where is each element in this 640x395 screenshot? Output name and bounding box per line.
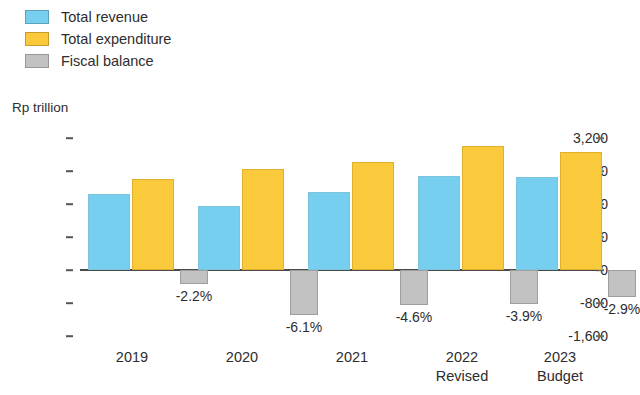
- y-axis-tick-mark: [66, 236, 73, 238]
- x-axis-category-year: 2023: [544, 349, 576, 365]
- y-axis-tick-mark: [66, 137, 73, 139]
- fiscal-balance-percent-label: -2.9%: [604, 301, 640, 317]
- x-axis-category-qualifier: Budget: [537, 367, 583, 386]
- y-axis-tick-mark: [66, 170, 73, 172]
- x-axis-category-year: 2019: [116, 349, 148, 365]
- bar-total-expenditure: [352, 162, 394, 270]
- x-axis-category-year: 2021: [336, 349, 368, 365]
- x-axis-category-label: 2020: [226, 348, 258, 367]
- x-axis-category-label: 2021: [336, 348, 368, 367]
- bar-total-revenue: [198, 206, 240, 270]
- bar-total-revenue: [516, 177, 558, 270]
- y-axis-tick-mark: [66, 269, 73, 271]
- x-axis-category-label: 2022Revised: [436, 348, 488, 386]
- bar-total-expenditure: [462, 146, 504, 270]
- bar-total-revenue: [88, 194, 130, 270]
- y-axis-tick-mark: [66, 335, 73, 337]
- x-axis-category-year: 2022: [446, 349, 478, 365]
- fiscal-balance-percent-label: -3.9%: [506, 308, 543, 324]
- fiscal-balance-percent-label: -2.2%: [176, 288, 213, 304]
- bar-total-revenue: [308, 192, 350, 270]
- bar-fiscal-balance: [290, 270, 318, 315]
- bar-fiscal-balance: [400, 270, 428, 305]
- x-axis-category-qualifier: Revised: [436, 367, 488, 386]
- bar-total-expenditure: [242, 169, 284, 270]
- x-axis-category-label: 2019: [116, 348, 148, 367]
- fiscal-balance-percent-label: -4.6%: [396, 309, 433, 325]
- y-axis-tick-mark: [66, 302, 73, 304]
- bar-fiscal-balance: [608, 270, 636, 297]
- y-axis-tick-mark-right: [596, 335, 604, 337]
- y-axis-tick-mark: [66, 203, 73, 205]
- y-axis-tick-mark-right: [596, 137, 604, 139]
- bar-total-expenditure: [560, 152, 602, 270]
- bar-fiscal-balance: [510, 270, 538, 304]
- fiscal-balance-percent-label: -6.1%: [286, 319, 323, 335]
- x-axis-category-year: 2020: [226, 349, 258, 365]
- x-axis-category-label: 2023Budget: [537, 348, 583, 386]
- bar-total-expenditure: [132, 179, 174, 270]
- bar-fiscal-balance: [180, 270, 208, 284]
- bar-total-revenue: [418, 176, 460, 270]
